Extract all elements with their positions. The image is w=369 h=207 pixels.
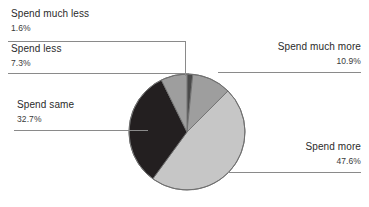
label-spend-much-more-value: 10.9% xyxy=(278,56,361,67)
label-spend-less-value: 7.3% xyxy=(11,58,61,69)
label-spend-less-text: Spend less xyxy=(11,43,61,55)
label-spend-same-text: Spend same xyxy=(17,99,74,111)
label-spend-more-text: Spend more xyxy=(306,141,361,153)
label-spend-more: Spend more 47.6% xyxy=(306,141,361,167)
label-spend-much-more: Spend much more 10.9% xyxy=(278,41,361,67)
label-spend-less: Spend less 7.3% xyxy=(11,43,61,69)
label-spend-much-less: Spend much less 1.6% xyxy=(11,8,89,34)
label-spend-same-value: 32.7% xyxy=(17,114,74,125)
label-spend-much-more-text: Spend much more xyxy=(278,41,361,53)
label-spend-same: Spend same 32.7% xyxy=(17,99,74,125)
label-spend-much-less-text: Spend much less xyxy=(11,8,89,20)
label-spend-more-value: 47.6% xyxy=(306,156,361,167)
label-spend-much-less-value: 1.6% xyxy=(11,23,89,34)
pie-chart-figure: Spend much less 1.6% Spend less 7.3% Spe… xyxy=(0,0,369,207)
